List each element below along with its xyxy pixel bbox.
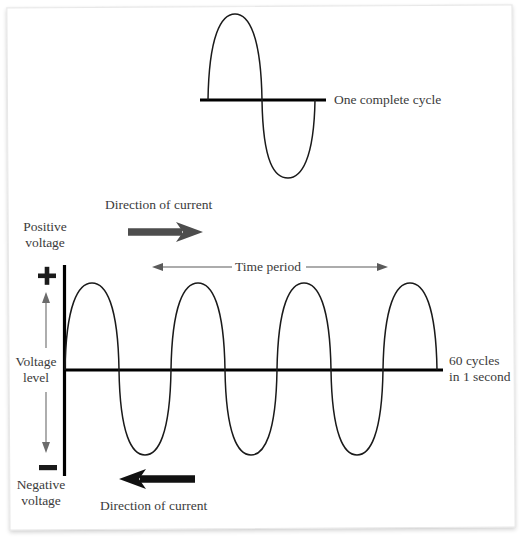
figure-canvas: One complete cycle Direction of current … xyxy=(0,0,523,539)
top-sine-curve xyxy=(208,14,315,178)
positive-voltage-line2: voltage xyxy=(25,235,65,250)
main-waveform-group xyxy=(64,283,443,455)
minus-sign-icon xyxy=(39,465,57,470)
positive-voltage-line1: Positive xyxy=(23,219,67,234)
label-negative-voltage: Negative voltage xyxy=(8,477,74,508)
top-cycle-group xyxy=(200,14,326,178)
voltage-level-line1: Voltage xyxy=(16,354,57,369)
label-positive-voltage: Positive voltage xyxy=(14,219,76,250)
negative-voltage-line2: voltage xyxy=(21,493,61,508)
direction-arrow-left xyxy=(119,469,195,489)
figure-root: One complete cycle Direction of current … xyxy=(0,0,523,539)
label-time-period: Time period xyxy=(235,259,301,275)
cycles-line1: 60 cycles xyxy=(449,353,500,368)
negative-voltage-line1: Negative xyxy=(17,477,66,492)
label-voltage-level: Voltage level xyxy=(10,354,62,385)
direction-arrow-right xyxy=(128,222,203,242)
label-sixty-cycles: 60 cycles in 1 second xyxy=(449,353,521,384)
label-one-complete-cycle: One complete cycle xyxy=(334,92,441,108)
voltage-level-line2: level xyxy=(23,370,49,385)
label-direction-of-current-top: Direction of current xyxy=(105,197,212,213)
label-direction-of-current-bottom: Direction of current xyxy=(100,498,207,514)
plus-sign-icon xyxy=(38,267,56,285)
cycles-line2: in 1 second xyxy=(449,369,511,384)
